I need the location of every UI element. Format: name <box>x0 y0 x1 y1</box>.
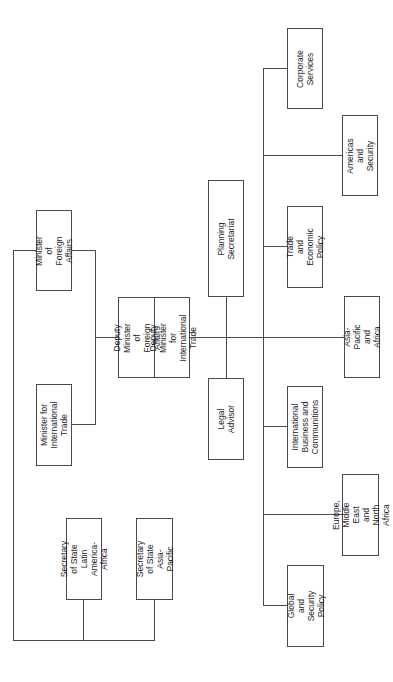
node-trade-and-economic-policy: Trade and Economic Policy <box>287 206 323 288</box>
connector-outer-left <box>13 250 14 641</box>
connector-sos-latam <box>83 599 84 640</box>
node-label: Legal Advisor <box>216 405 236 433</box>
connector-mfa-right <box>71 250 95 251</box>
node-label: Americas and Security <box>345 138 375 173</box>
connector-directorates-spine <box>263 68 264 606</box>
node-asia-pacific-and-africa: Asia-Pacific and Africa <box>344 296 380 378</box>
node-americas-and-security: Americas and Security <box>342 115 378 196</box>
connector-international-business <box>263 426 287 427</box>
connector-sos-asia-pacific <box>154 599 155 641</box>
connector-trade-economic-policy <box>263 246 287 247</box>
node-label: Secretary of State Asia-Pacific <box>135 541 175 577</box>
connector-mit-right <box>71 424 95 425</box>
connector-global-security-policy <box>263 605 287 606</box>
node-label: Planning Secretariat <box>216 218 236 259</box>
node-secretary-state-latin-america-africa: Secretary of State Latin America- Africa <box>66 518 102 600</box>
connector-bottom-bracket <box>13 640 155 641</box>
node-planning-secretariat: Planning Secretariat <box>208 180 244 297</box>
node-label: Corporate Services <box>295 50 315 88</box>
node-deputy-ministers: Deputy Minister of Foreign Affairs Deput… <box>118 297 190 378</box>
node-europe-middle-east-north-africa: Europe, Middle East and North Africa <box>342 474 379 556</box>
node-label: International Business and Communitions <box>290 400 320 454</box>
node-label: Trade and Economic Policy <box>285 228 325 265</box>
node-label: Secretary of State Latin America- Africa <box>59 541 109 577</box>
connector-staff <box>226 296 227 379</box>
node-corporate-services: Corporate Services <box>287 28 323 109</box>
connector-top-bracket <box>13 250 36 251</box>
node-label: Europe, Middle East and North Africa <box>331 500 391 530</box>
node-global-and-security-policy: Global and Security Policy <box>287 565 324 647</box>
node-label: Minister for International Trade <box>39 402 69 449</box>
node-deputy-minister-international-trade: Deputy Minister for International Trade <box>155 298 190 377</box>
connector-main-trunk <box>190 337 345 338</box>
connector-corporate-services <box>263 68 287 69</box>
node-label: Global and Security Policy <box>286 591 326 622</box>
node-label: Minister of Foreign Affairs <box>34 236 74 266</box>
node-label: Asia-Pacific and Africa <box>342 324 382 349</box>
node-legal-advisor: Legal Advisor <box>208 378 244 460</box>
node-minister-international-trade: Minister for International Trade <box>36 384 72 466</box>
connector-americas-security <box>263 155 343 156</box>
node-minister-foreign-affairs: Minister of Foreign Affairs <box>36 210 72 291</box>
node-international-business-communitions: International Business and Communitions <box>287 386 323 468</box>
node-secretary-state-asia-pacific: Secretary of State Asia-Pacific <box>136 518 173 600</box>
